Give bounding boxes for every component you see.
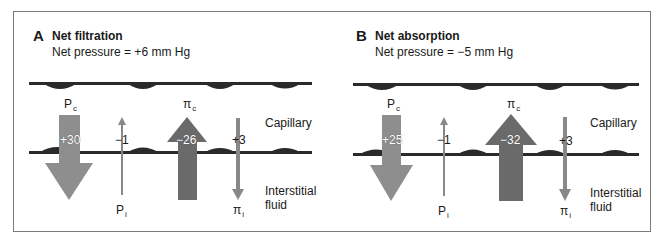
- panel-letter: B: [356, 27, 367, 44]
- capillary-label: Capillary: [265, 116, 312, 130]
- pc-value: +30: [60, 133, 80, 147]
- pii-symbol: πi: [560, 204, 571, 220]
- panel-title: Net absorption: [375, 29, 460, 43]
- interstitial-label-line2: fluid: [590, 200, 641, 214]
- pic-symbol: πc: [183, 97, 196, 113]
- pii-arrow-icon: [232, 118, 244, 200]
- interstitial-fluid-label: Interstitial fluid: [265, 184, 316, 212]
- interstitial-label-line2: fluid: [265, 198, 316, 212]
- interstitial-label-line1: Interstitial: [265, 184, 316, 198]
- pc-symbol: Pc: [387, 97, 400, 113]
- pc-arrow-icon: [370, 115, 413, 201]
- pi-arrow-icon: [440, 117, 448, 196]
- pic-symbol: πc: [507, 97, 520, 113]
- interstitial-label-line1: Interstitial: [590, 186, 641, 200]
- pii-value: +3: [232, 133, 246, 147]
- capillary-label: Capillary: [590, 116, 637, 130]
- pi-symbol: Pi: [116, 203, 127, 219]
- pic-arrow-icon: [485, 114, 537, 201]
- pi-symbol: Pi: [438, 204, 449, 220]
- panel-a-net-filtration: A Net filtration Net pressure = +6 mm Hg…: [0, 0, 330, 245]
- pic-value: −32: [500, 133, 520, 147]
- capillary-wall-top: [353, 83, 639, 90]
- pc-arrow-icon: [45, 115, 93, 200]
- net-pressure-label: Net pressure = +6 mm Hg: [52, 45, 190, 59]
- pc-symbol: Pc: [64, 97, 77, 113]
- pi-value: −1: [115, 133, 129, 147]
- pii-value: +3: [559, 134, 573, 148]
- interstitial-fluid-label: Interstitial fluid: [590, 186, 641, 214]
- panel-b-net-absorption: B Net absorption Net pressure = −5 mm Hg…: [330, 0, 659, 245]
- pic-value: −26: [176, 133, 196, 147]
- panel-letter: A: [33, 27, 44, 44]
- pii-symbol: πi: [233, 203, 244, 219]
- pic-arrow-icon: [167, 117, 207, 200]
- pii-arrow-icon: [559, 117, 571, 201]
- pc-value: +25: [382, 133, 402, 147]
- capillary-wall-top: [29, 82, 312, 89]
- pi-value: −1: [437, 133, 451, 147]
- pi-arrow-icon: [118, 117, 126, 195]
- net-pressure-label: Net pressure = −5 mm Hg: [375, 45, 513, 59]
- panel-title: Net filtration: [52, 29, 123, 43]
